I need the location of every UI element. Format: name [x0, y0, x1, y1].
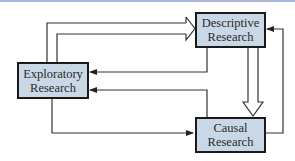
node-label-line1: Causal	[213, 121, 247, 135]
node-label-line2: Research	[208, 135, 254, 149]
node-causal-research: Causal Research	[195, 117, 266, 153]
node-label-line2: Research	[30, 81, 76, 95]
node-descriptive-research: Descriptive Research	[195, 12, 266, 48]
node-label-line1: Descriptive	[202, 16, 260, 30]
edge-exploratory-to-causal	[52, 98, 193, 133]
edge-descriptive-to-exploratory	[90, 47, 207, 72]
node-label-line1: Exploratory	[23, 67, 83, 81]
edge-causal-to-descriptive	[265, 29, 283, 133]
hollow-arrowhead-icon	[186, 17, 195, 40]
edge-causal-to-exploratory	[90, 90, 207, 117]
edge-exploratory-to-descriptive-2	[57, 34, 186, 62]
node-exploratory-research: Exploratory Research	[17, 62, 89, 99]
edge-exploratory-to-descriptive-1	[47, 23, 186, 62]
edge-descriptive-to-causal	[243, 47, 263, 116]
node-label-line2: Research	[208, 30, 254, 44]
